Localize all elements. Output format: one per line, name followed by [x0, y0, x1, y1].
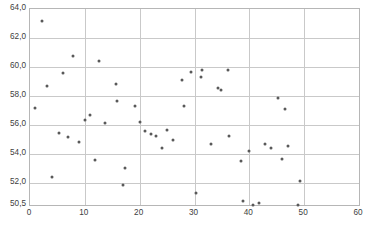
data-point: [61, 71, 64, 74]
data-point: [200, 68, 203, 71]
data-point: [83, 119, 86, 122]
data-point: [280, 157, 283, 160]
data-point: [183, 104, 186, 107]
data-point: [283, 108, 286, 111]
x-axis-tick-label: 10: [79, 209, 88, 217]
data-point: [93, 158, 96, 161]
x-axis-tick-label: 20: [134, 209, 143, 217]
y-axis-tick-label: 56,0: [0, 120, 26, 128]
data-point: [248, 149, 251, 152]
data-point: [71, 55, 74, 58]
data-point: [227, 68, 230, 71]
y-axis-tick-label: 50,5: [0, 200, 26, 208]
data-point: [124, 166, 127, 169]
data-point: [242, 199, 245, 202]
data-point: [257, 201, 260, 204]
y-axis-tick-label: 58,0: [0, 91, 26, 99]
data-point: [160, 147, 163, 150]
data-point: [57, 132, 60, 135]
x-axis-tick-labels: 0102030405060: [29, 209, 360, 221]
data-point: [150, 132, 153, 135]
data-point: [88, 113, 91, 116]
data-point: [276, 96, 279, 99]
x-axis-tick-label: 0: [27, 209, 32, 217]
gridline-vertical: [85, 9, 86, 205]
gridline-vertical: [195, 9, 196, 205]
data-point: [114, 82, 117, 85]
data-point: [189, 71, 192, 74]
plot-area: [29, 8, 360, 206]
data-point: [115, 100, 118, 103]
gridline-vertical: [249, 9, 250, 205]
data-point: [166, 129, 169, 132]
scatter-chart: 50,552,054,056,058,060,062,064,0 0102030…: [0, 0, 366, 234]
x-axis-tick-label: 60: [353, 209, 362, 217]
data-point: [228, 135, 231, 138]
x-axis-tick-label: 50: [299, 209, 308, 217]
y-axis-tick-label: 52,0: [0, 178, 26, 186]
data-point: [144, 129, 147, 132]
data-point: [287, 145, 290, 148]
gridline-vertical: [304, 9, 305, 205]
data-point: [41, 20, 44, 23]
y-axis-tick-label: 60,0: [0, 62, 26, 70]
data-point: [269, 146, 272, 149]
data-point: [154, 135, 157, 138]
gridline-vertical: [140, 9, 141, 205]
y-axis-tick-labels: 50,552,054,056,058,060,062,064,0: [0, 8, 26, 206]
data-point: [216, 87, 219, 90]
data-point: [299, 180, 302, 183]
y-axis-tick-label: 54,0: [0, 149, 26, 157]
data-point: [194, 192, 197, 195]
y-axis-tick-label: 64,0: [0, 4, 26, 12]
data-point: [240, 160, 243, 163]
data-point: [210, 143, 213, 146]
data-point: [180, 79, 183, 82]
data-point: [251, 204, 254, 207]
data-point: [50, 176, 53, 179]
y-axis-tick-label: 62,0: [0, 33, 26, 41]
data-point: [133, 104, 136, 107]
data-point: [171, 138, 174, 141]
data-point: [200, 75, 203, 78]
data-point: [264, 143, 267, 146]
data-point: [139, 120, 142, 123]
data-point: [78, 140, 81, 143]
data-point: [103, 121, 106, 124]
data-point: [34, 107, 37, 110]
data-point: [67, 136, 70, 139]
data-point: [296, 204, 299, 207]
data-point: [98, 59, 101, 62]
x-axis-tick-label: 30: [189, 209, 198, 217]
x-axis-tick-label: 40: [244, 209, 253, 217]
data-point: [122, 184, 125, 187]
data-point: [45, 84, 48, 87]
data-point: [220, 89, 223, 92]
